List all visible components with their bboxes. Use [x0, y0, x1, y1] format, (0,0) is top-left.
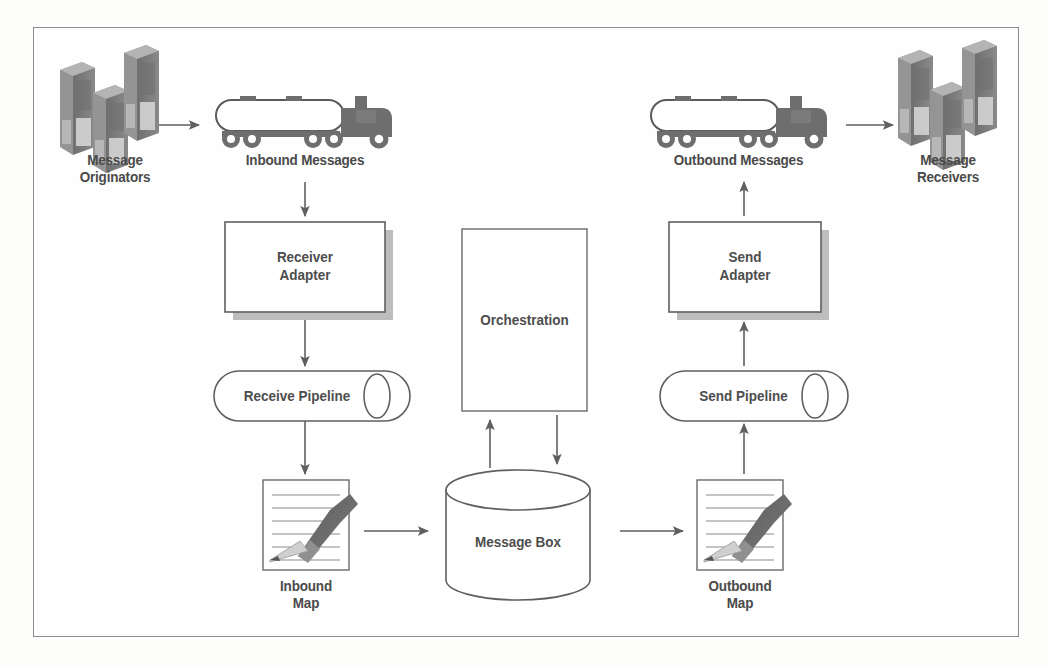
label-message-box: Message Box	[451, 533, 585, 551]
label-message-receivers: Message Receivers	[883, 152, 1013, 186]
label-outbound-messages: Outbound Messages	[648, 152, 829, 169]
label-inbound-messages: Inbound Messages	[221, 152, 388, 169]
label-inbound-map: Inbound Map	[246, 578, 367, 612]
diagram-canvas: Message Originators Inbound Messages Rec…	[0, 0, 1049, 668]
label-send-pipeline: Send Pipeline	[685, 387, 801, 405]
label-receive-pipeline: Receive Pipeline	[237, 387, 358, 405]
label-receiver-adapter: Receiver Adapter	[231, 248, 380, 284]
label-orchestration: Orchestration	[466, 311, 582, 329]
label-send-adapter: Send Adapter	[674, 248, 815, 284]
label-outbound-map: Outbound Map	[680, 578, 801, 612]
label-message-originators: Message Originators	[45, 152, 185, 186]
